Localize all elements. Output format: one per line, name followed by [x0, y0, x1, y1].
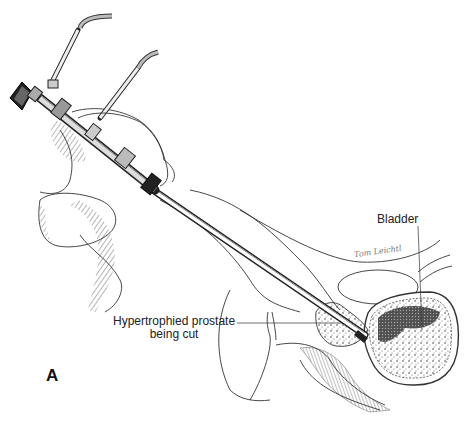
- irrigation-outflow-port: [100, 52, 158, 118]
- bladder-label: Bladder: [377, 213, 418, 226]
- prostate-label: Hypertrophied prostate being cut: [113, 315, 235, 341]
- irrigation-inflow-port: [48, 16, 112, 88]
- panel-label: A: [46, 369, 58, 382]
- resectoscope-illustration: [0, 0, 470, 421]
- resectoscope-eyepiece: [10, 82, 43, 110]
- prostate-label-line2: being cut: [113, 328, 235, 341]
